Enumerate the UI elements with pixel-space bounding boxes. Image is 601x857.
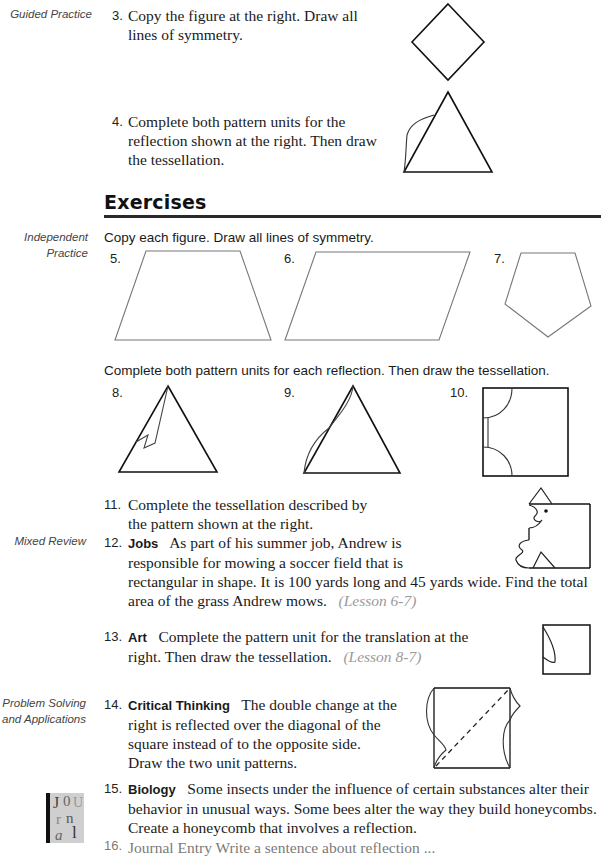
journal-letter: r [56,811,61,828]
exercise-keyword: Biology [128,782,176,797]
exercise-text: Journal Entry Write a sentence about ref… [128,838,435,857]
text-line: Create a honeycomb that involves a refle… [128,818,601,837]
journal-letter: U [73,795,83,811]
exercise-text: Biology Some insects under the influence… [128,779,601,837]
journal-letter: l [72,823,77,843]
journal-letter: 0 [63,793,71,810]
journal-letter: J [53,794,59,812]
figure-double-change-square [0,0,1,1]
text-line: behavior in unusual ways. Some bees alte… [128,799,601,818]
exercise-number: 15. [104,781,122,796]
journal-letter: a [55,827,63,844]
journal-icon: J 0 U r n a l [46,793,84,843]
text-line: Biology Some insects under the influence… [128,779,601,799]
text-span: Some insects under the influence of cert… [187,780,589,797]
exercise-number: 16. [104,838,122,853]
